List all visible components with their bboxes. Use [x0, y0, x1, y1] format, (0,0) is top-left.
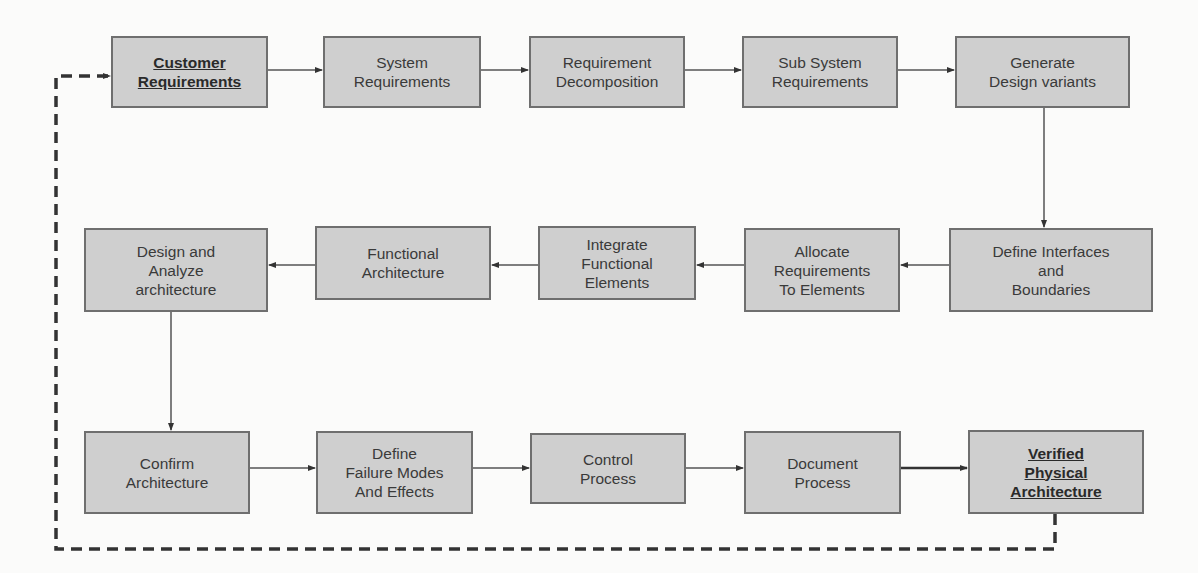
- node-label: Generate Design variants: [989, 53, 1096, 91]
- node-customer-requirements: Customer Requirements: [111, 36, 268, 108]
- flowchart-canvas: Customer Requirements System Requirement…: [0, 0, 1198, 573]
- node-label: Document Process: [787, 454, 858, 492]
- node-label: Verified Physical Architecture: [1010, 444, 1101, 501]
- node-label: Define Interfaces and Boundaries: [992, 242, 1109, 299]
- node-generate-design-variants: Generate Design variants: [955, 36, 1130, 108]
- node-design-analyze: Design and Analyze architecture: [84, 228, 268, 312]
- node-label: Customer Requirements: [138, 53, 241, 91]
- node-define-interfaces: Define Interfaces and Boundaries: [949, 228, 1153, 312]
- node-label: Integrate Functional Elements: [581, 235, 653, 292]
- node-label: Functional Architecture: [362, 244, 445, 282]
- node-requirement-decomposition: Requirement Decomposition: [529, 36, 685, 108]
- node-control-process: Control Process: [530, 433, 686, 504]
- node-label: Confirm Architecture: [126, 454, 209, 492]
- node-sub-system-requirements: Sub System Requirements: [742, 36, 898, 108]
- node-confirm-architecture: Confirm Architecture: [84, 431, 250, 514]
- node-verified-physical-architecture: Verified Physical Architecture: [968, 430, 1144, 514]
- node-allocate-requirements: Allocate Requirements To Elements: [744, 228, 900, 312]
- node-functional-architecture: Functional Architecture: [315, 226, 491, 300]
- node-integrate-functional: Integrate Functional Elements: [538, 226, 696, 300]
- node-label: Allocate Requirements To Elements: [774, 242, 871, 299]
- node-label: Control Process: [580, 450, 636, 488]
- node-document-process: Document Process: [744, 431, 901, 514]
- node-label: Design and Analyze architecture: [136, 242, 217, 299]
- node-label: System Requirements: [354, 53, 451, 91]
- node-label: Sub System Requirements: [772, 53, 869, 91]
- node-failure-modes: Define Failure Modes And Effects: [316, 431, 473, 514]
- node-label: Requirement Decomposition: [556, 53, 659, 91]
- node-label: Define Failure Modes And Effects: [345, 444, 443, 501]
- node-system-requirements: System Requirements: [323, 36, 481, 108]
